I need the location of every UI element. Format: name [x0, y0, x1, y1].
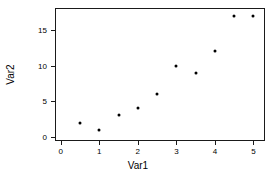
x-axis-tick-mark [253, 141, 254, 145]
y-axis-tick-mark [51, 30, 55, 31]
y-axis-tick-label: 10 [38, 61, 47, 70]
data-point [213, 50, 216, 53]
y-axis-tick-label: 0 [43, 132, 47, 141]
x-axis-tick-mark [99, 141, 100, 145]
x-axis-tick-label: 3 [174, 147, 178, 156]
data-point [233, 14, 236, 17]
y-axis-tick-label: 5 [43, 97, 47, 106]
x-axis-title: Var1 [0, 160, 276, 172]
y-axis-tick-mark [51, 101, 55, 102]
x-axis-tick-label: 5 [251, 147, 255, 156]
data-point [175, 64, 178, 67]
x-axis-tick-mark [176, 141, 177, 145]
data-point [194, 71, 197, 74]
scatter-plot-figure: 012345051015 Var1 Var2 [0, 0, 276, 182]
x-axis-tick-mark [138, 141, 139, 145]
y-axis-tick-mark [51, 66, 55, 67]
y-axis-title: Var2 [4, 8, 18, 141]
x-axis-tick-label: 4 [213, 147, 217, 156]
x-axis-tick-label: 0 [59, 147, 63, 156]
data-point [98, 128, 101, 131]
y-axis-tick-mark [51, 137, 55, 138]
data-point [79, 121, 82, 124]
y-axis-tick-label: 15 [38, 26, 47, 35]
x-axis-tick-mark [215, 141, 216, 145]
data-points-layer [55, 8, 265, 141]
data-point [156, 93, 159, 96]
data-point [117, 114, 120, 117]
x-axis-tick-label: 2 [136, 147, 140, 156]
data-point [252, 14, 255, 17]
data-point [136, 107, 139, 110]
x-axis-tick-mark [61, 141, 62, 145]
x-axis-tick-label: 1 [97, 147, 101, 156]
